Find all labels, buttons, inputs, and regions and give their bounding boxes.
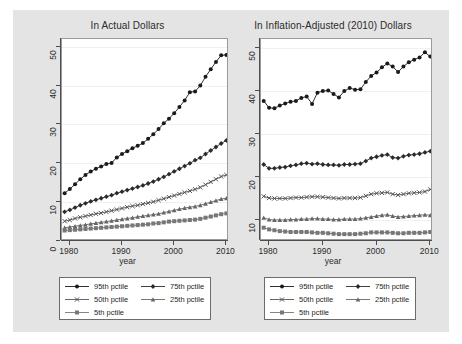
plot-area-right (260, 38, 432, 240)
legend-item[interactable]: 95th pctile (64, 281, 128, 292)
legend-item[interactable]: 50th pctile (269, 294, 333, 305)
legend-key-circle-icon (269, 281, 295, 292)
legend-item-label: 50th pctile (94, 294, 128, 305)
graph-region: In Actual Dollars 0102030405019801990200… (13, 10, 449, 332)
panel-title-right: In Inflation-Adjusted (2010) Dollars (229, 20, 437, 31)
legend-item-label: 5th pctile (299, 307, 329, 318)
x-tick (429, 241, 430, 245)
x-axis-title-right: year (229, 256, 437, 266)
x-tick-label: 1990 (107, 246, 135, 256)
y-tick-label: 50 (247, 46, 257, 66)
legend-right: 95th pctile50th pctile5th pctile75th pct… (264, 277, 416, 320)
panel-inflation-adjusted: In Inflation-Adjusted (2010) Dollars 102… (229, 10, 437, 272)
legend-entries-left: 95th pctile50th pctile5th pctile75th pct… (60, 278, 210, 319)
x-axis-line (61, 240, 228, 241)
y-tick-label: 10 (247, 218, 257, 238)
series-layer-left (62, 39, 227, 239)
legend-item[interactable]: 25th pctile (140, 294, 204, 305)
x-tick-label: 2010 (415, 246, 443, 256)
series-line-1 (264, 52, 431, 108)
legend-item-label: 75th pctile (170, 281, 204, 292)
y-tick-label: 30 (247, 132, 257, 152)
series-markers-2 (261, 149, 432, 171)
legend-item[interactable]: 75th pctile (140, 281, 204, 292)
series-line-4 (264, 215, 431, 220)
legend-key-triangle-icon (140, 294, 166, 305)
x-tick (225, 241, 226, 245)
series-line-1 (65, 55, 227, 193)
legend-item-label: 95th pctile (299, 281, 333, 292)
x-tick (173, 241, 174, 245)
legend-item-label: 25th pctile (375, 294, 409, 305)
plot-area-left (61, 38, 228, 240)
x-tick-label: 1980 (55, 246, 83, 256)
y-tick-label: 40 (48, 84, 58, 104)
figure: In Actual Dollars 0102030405019801990200… (0, 0, 462, 344)
x-axis-line (260, 240, 432, 241)
x-tick (322, 241, 323, 245)
y-tick-label: 30 (48, 122, 58, 142)
legend-item-label: 25th pctile (170, 294, 204, 305)
legend-item-label: 50th pctile (299, 294, 333, 305)
legend-key-x-icon (64, 294, 90, 305)
legend-key-triangle-icon (345, 294, 371, 305)
x-tick-label: 2000 (362, 246, 390, 256)
legend-item-label: 5th pctile (94, 307, 124, 318)
x-axis-title-left: year (25, 256, 230, 266)
legend-item[interactable]: 95th pctile (269, 281, 333, 292)
series-markers-4 (261, 212, 432, 221)
legend-key-diamond-icon (345, 281, 371, 292)
x-tick (268, 241, 269, 245)
legend-item[interactable]: 25th pctile (345, 294, 409, 305)
x-tick (69, 241, 70, 245)
legend-key-diamond-icon (140, 281, 166, 292)
legend-entries-right: 95th pctile50th pctile5th pctile75th pct… (265, 278, 415, 319)
legend-item[interactable]: 75th pctile (345, 281, 409, 292)
legend-item[interactable]: 5th pctile (64, 307, 124, 318)
legend-item-label: 95th pctile (94, 281, 128, 292)
x-tick (121, 241, 122, 245)
legend-left: 95th pctile50th pctile5th pctile75th pct… (59, 277, 211, 320)
y-axis-line (60, 38, 61, 240)
y-tick-label: 20 (247, 175, 257, 195)
legend-key-circle-icon (64, 281, 90, 292)
y-tick-label: 40 (247, 89, 257, 109)
y-tick-label: 10 (48, 200, 58, 220)
panel-title-left: In Actual Dollars (25, 20, 230, 31)
legend-item[interactable]: 5th pctile (269, 307, 329, 318)
series-layer-right (261, 39, 431, 239)
panel-actual-dollars: In Actual Dollars 0102030405019801990200… (25, 10, 230, 272)
legend-key-square-icon (269, 307, 295, 318)
x-tick-label: 1990 (308, 246, 336, 256)
series-line-3 (65, 175, 227, 221)
legend-key-square-icon (64, 307, 90, 318)
y-tick-label: 50 (48, 45, 58, 65)
series-line-3 (264, 189, 431, 198)
legend-item[interactable]: 50th pctile (64, 294, 128, 305)
x-tick-label: 2000 (159, 246, 187, 256)
x-tick-label: 1980 (254, 246, 282, 256)
x-tick (376, 241, 377, 245)
y-tick-label: 20 (48, 161, 58, 181)
series-markers-1 (262, 50, 432, 110)
y-axis-line (259, 38, 260, 240)
legend-item-label: 75th pctile (375, 281, 409, 292)
legend-key-x-icon (269, 294, 295, 305)
